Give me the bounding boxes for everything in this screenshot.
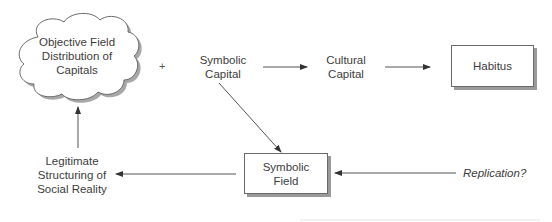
symbolic-field-line-2: Field <box>274 174 299 188</box>
cultural-capital-line-2: Capital <box>318 67 374 81</box>
node-symbolic-field: Symbolic Field <box>244 153 328 194</box>
symbolic-field-line-1: Symbolic <box>263 160 310 174</box>
symbolic-capital-line-2: Capital <box>193 67 253 81</box>
legitimate-line-1: Legitimate <box>30 154 114 168</box>
node-replication: Replication? <box>463 166 526 180</box>
node-objective-field: Objective Field Distribution of Capitals <box>22 35 132 77</box>
node-cultural-capital: Cultural Capital <box>318 53 374 81</box>
cultural-capital-line-1: Cultural <box>318 53 374 67</box>
node-habitus: Habitus <box>451 45 534 87</box>
legitimate-line-3: Social Reality <box>30 182 114 196</box>
diagram-canvas: Objective Field Distribution of Capitals… <box>0 0 552 222</box>
arrow-symbolic-capital-to-field <box>219 83 281 152</box>
habitus-label: Habitus <box>473 59 512 73</box>
objective-field-line-2: Distribution of <box>22 49 132 63</box>
objective-field-line-3: Capitals <box>22 63 132 77</box>
node-legitimate-structuring: Legitimate Structuring of Social Reality <box>30 154 114 196</box>
legitimate-line-2: Structuring of <box>30 168 114 182</box>
plus-sign: + <box>159 60 165 72</box>
objective-field-line-1: Objective Field <box>22 35 132 49</box>
node-symbolic-capital: Symbolic Capital <box>193 53 253 81</box>
symbolic-capital-line-1: Symbolic <box>193 53 253 67</box>
